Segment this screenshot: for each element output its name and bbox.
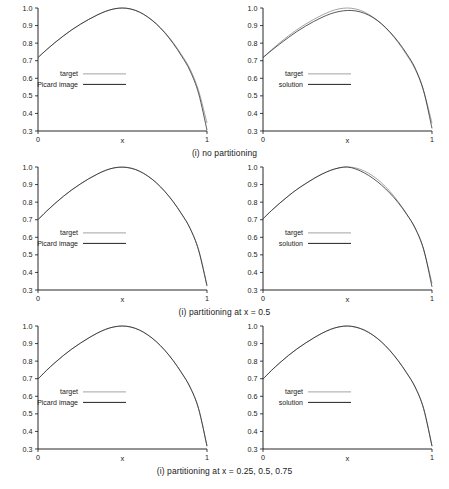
figure-row-2: 0.30.40.50.60.70.80.91.001xtargetPicard …	[0, 159, 449, 307]
legend-label: target	[60, 229, 78, 237]
x-tick-label: 1	[430, 135, 434, 144]
y-tick-label: 0.7	[23, 374, 33, 383]
legend-label: target	[60, 388, 78, 396]
plot-area: 0.30.40.50.60.70.80.91.001xtargetsolutio…	[225, 318, 449, 466]
chart-svg: 0.30.40.50.60.70.80.91.001xtargetPicard …	[0, 0, 225, 148]
x-axis-title: x	[121, 295, 125, 304]
y-tick-label: 0.6	[23, 233, 33, 242]
chart-svg: 0.30.40.50.60.70.80.91.001xtargetsolutio…	[225, 318, 449, 466]
x-axis-title: x	[345, 454, 349, 463]
panel-row1-right: 0.30.40.50.60.70.80.91.001xtargetsolutio…	[225, 0, 449, 148]
y-tick-label: 0.6	[247, 392, 257, 401]
x-tick-label: 1	[430, 294, 434, 303]
y-tick-label: 0.3	[247, 445, 257, 454]
legend-label: Picard image	[37, 81, 78, 89]
x-tick-label: 0	[261, 135, 265, 144]
y-tick-label: 0.8	[23, 357, 33, 366]
y-tick-label: 0.6	[247, 233, 257, 242]
panel-row3-left: 0.30.40.50.60.70.80.91.001xtargetPicard …	[0, 318, 225, 466]
series-line	[263, 326, 432, 446]
y-tick-label: 0.9	[247, 180, 257, 189]
y-tick-label: 0.3	[247, 286, 257, 295]
y-tick-label: 1.0	[23, 322, 33, 331]
y-tick-label: 0.8	[247, 39, 257, 48]
x-tick-label: 0	[261, 294, 265, 303]
y-tick-label: 0.4	[23, 427, 33, 436]
y-tick-label: 0.5	[247, 250, 257, 259]
y-tick-label: 0.6	[23, 392, 33, 401]
legend-label: target	[285, 70, 303, 78]
series-line	[263, 8, 432, 123]
y-tick-label: 0.4	[23, 268, 33, 277]
legend-label: solution	[278, 81, 302, 88]
x-axis-title: x	[121, 136, 125, 145]
x-tick-label: 1	[205, 453, 209, 462]
series-line	[263, 326, 432, 446]
x-tick-label: 1	[430, 453, 434, 462]
y-tick-label: 0.5	[23, 250, 33, 259]
y-tick-label: 0.7	[23, 215, 33, 224]
series-line	[38, 8, 207, 130]
series-line	[38, 326, 207, 446]
x-axis-title: x	[345, 136, 349, 145]
y-tick-label: 0.8	[23, 198, 33, 207]
legend-label: target	[60, 70, 78, 78]
caption-row-3: (i) partitioning at x = 0.25, 0.5, 0.75	[0, 466, 449, 477]
y-tick-label: 0.8	[247, 198, 257, 207]
y-tick-label: 0.4	[247, 268, 257, 277]
x-tick-label: 0	[36, 453, 40, 462]
series-line	[38, 326, 207, 446]
x-tick-label: 0	[36, 135, 40, 144]
y-tick-label: 0.3	[23, 127, 33, 136]
y-tick-label: 1.0	[247, 322, 257, 331]
y-tick-label: 0.7	[247, 215, 257, 224]
series-line	[38, 167, 207, 285]
y-tick-label: 0.8	[247, 357, 257, 366]
legend-label: Picard image	[37, 240, 78, 248]
y-tick-label: 0.7	[23, 56, 33, 65]
x-axis-title: x	[121, 454, 125, 463]
legend-label: solution	[278, 399, 302, 406]
series-line	[263, 167, 432, 287]
x-axis-title: x	[345, 295, 349, 304]
legend-label: Picard image	[37, 399, 78, 407]
panel-row3-right: 0.30.40.50.60.70.80.91.001xtargetsolutio…	[225, 318, 449, 466]
y-tick-label: 0.6	[247, 74, 257, 83]
series-line	[38, 167, 207, 286]
figure-panel-grid: 0.30.40.50.60.70.80.91.001xtargetPicard …	[0, 0, 449, 489]
x-tick-label: 0	[261, 453, 265, 462]
y-tick-label: 0.4	[247, 109, 257, 118]
figure-row-3: 0.30.40.50.60.70.80.91.001xtargetPicard …	[0, 318, 449, 466]
series-line	[38, 8, 207, 123]
y-tick-label: 0.6	[23, 74, 33, 83]
caption-row-1: (i) no partitioning	[0, 148, 449, 159]
y-tick-label: 0.3	[23, 445, 33, 454]
y-tick-label: 0.5	[23, 409, 33, 418]
y-tick-label: 0.4	[247, 427, 257, 436]
chart-svg: 0.30.40.50.60.70.80.91.001xtargetPicard …	[0, 159, 225, 307]
x-tick-label: 0	[36, 294, 40, 303]
x-tick-label: 1	[205, 135, 209, 144]
y-tick-label: 0.7	[247, 56, 257, 65]
plot-area: 0.30.40.50.60.70.80.91.001xtargetPicard …	[0, 0, 225, 148]
y-tick-label: 0.9	[23, 21, 33, 30]
x-tick-label: 1	[205, 294, 209, 303]
y-tick-label: 0.3	[23, 286, 33, 295]
chart-svg: 0.30.40.50.60.70.80.91.001xtargetPicard …	[0, 318, 225, 466]
y-tick-label: 0.8	[23, 39, 33, 48]
y-tick-label: 0.9	[247, 339, 257, 348]
chart-svg: 0.30.40.50.60.70.80.91.001xtargetsolutio…	[225, 159, 449, 307]
y-tick-label: 0.7	[247, 374, 257, 383]
y-tick-label: 0.9	[23, 339, 33, 348]
y-tick-label: 0.9	[247, 21, 257, 30]
panel-row2-right: 0.30.40.50.60.70.80.91.001xtargetsolutio…	[225, 159, 449, 307]
y-tick-label: 1.0	[23, 4, 33, 13]
plot-area: 0.30.40.50.60.70.80.91.001xtargetsolutio…	[225, 159, 449, 307]
y-tick-label: 0.9	[23, 180, 33, 189]
series-line	[263, 167, 432, 283]
plot-area: 0.30.40.50.60.70.80.91.001xtargetPicard …	[0, 318, 225, 466]
y-tick-label: 1.0	[247, 4, 257, 13]
legend-label: target	[285, 388, 303, 396]
plot-area: 0.30.40.50.60.70.80.91.001xtargetsolutio…	[225, 0, 449, 148]
plot-area: 0.30.40.50.60.70.80.91.001xtargetPicard …	[0, 159, 225, 307]
